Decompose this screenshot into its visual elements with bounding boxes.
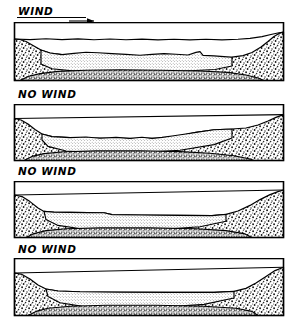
panel-label-no-wind-1: NO WIND bbox=[18, 88, 77, 100]
panel-3-cross-section bbox=[0, 181, 295, 239]
panel-label-no-wind-3: NO WIND bbox=[18, 243, 77, 255]
figure-root: WIND bbox=[0, 0, 295, 323]
panel-no-wind-3: NO WIND bbox=[0, 240, 295, 323]
panel-wind: WIND bbox=[0, 0, 295, 84]
panel-no-wind-2: NO WIND bbox=[0, 162, 295, 240]
panel-1-cross-section bbox=[0, 22, 295, 82]
panel-2-cross-section bbox=[0, 104, 295, 162]
panel-no-wind-1: NO WIND bbox=[0, 84, 295, 162]
panel-4-cross-section bbox=[0, 258, 295, 318]
panel-label-no-wind-2: NO WIND bbox=[18, 165, 77, 177]
